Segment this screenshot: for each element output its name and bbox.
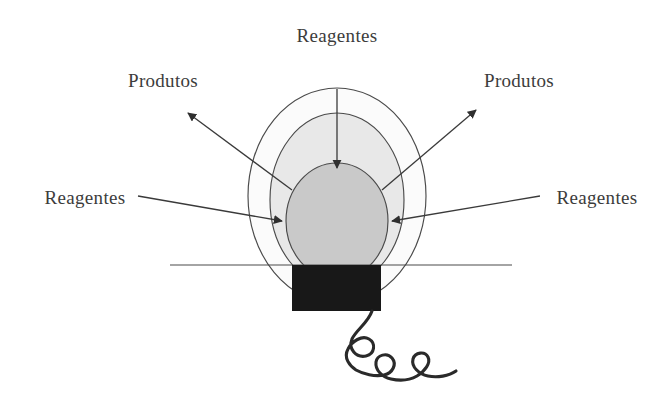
label-reagent-left: Reagentes xyxy=(45,187,126,208)
flame-diagram-canvas: Reagentes Produtos Produtos Reagentes Re… xyxy=(0,0,668,398)
diagram-root: Reagentes Produtos Produtos Reagentes Re… xyxy=(0,0,668,398)
coiled-gas-hose xyxy=(346,311,456,380)
label-product-right: Produtos xyxy=(484,70,554,91)
label-reagent-top: Reagentes xyxy=(297,25,378,46)
label-reagent-right: Reagentes xyxy=(557,187,638,208)
burner-block xyxy=(292,265,381,311)
inner-core-ellipse xyxy=(286,163,388,279)
label-product-left: Produtos xyxy=(128,70,198,91)
